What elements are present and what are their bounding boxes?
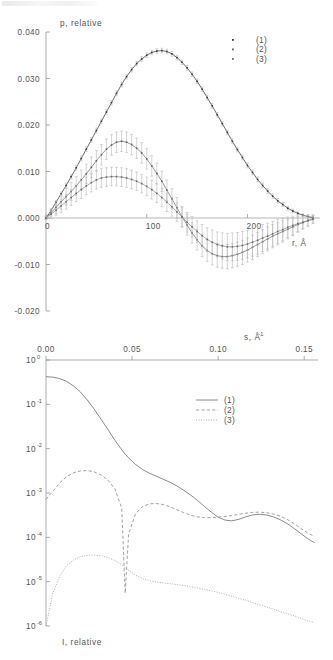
data-point	[96, 130, 98, 132]
bottom-y-tick-exponent: 0	[37, 354, 40, 360]
data-point	[282, 229, 284, 231]
data-point	[45, 217, 47, 219]
data-point	[216, 244, 218, 246]
scan-artifact	[2, 1, 98, 6]
data-point	[312, 218, 314, 220]
bottom-y-tick-label: 10	[26, 578, 36, 587]
data-point	[176, 57, 178, 59]
top-y-tick-label: 0.000	[18, 214, 41, 223]
bottom-x-tick-label: 0.15	[295, 345, 313, 354]
data-point	[121, 140, 123, 142]
data-point	[111, 144, 113, 146]
data-point	[242, 157, 244, 159]
data-point	[287, 207, 289, 209]
data-point	[80, 158, 82, 160]
data-point	[75, 193, 77, 195]
data-point	[292, 210, 294, 212]
bottom-y-tick-exponent: -2	[37, 442, 42, 448]
data-point	[96, 160, 98, 162]
data-point	[116, 141, 118, 143]
bottom-x-tick-label: 0.05	[123, 345, 141, 354]
bottom-y-tick-label: 10	[26, 622, 36, 631]
data-point	[252, 241, 254, 243]
data-point	[131, 179, 133, 181]
data-point	[171, 53, 173, 55]
bottom-y-tick-exponent: -4	[37, 531, 42, 537]
data-point	[80, 179, 82, 181]
data-point	[121, 176, 123, 178]
data-point	[267, 190, 269, 192]
bottom-legend-label-3: (3)	[224, 415, 235, 425]
data-point	[80, 189, 82, 191]
data-point	[106, 148, 108, 150]
data-point	[70, 176, 72, 178]
data-point	[216, 114, 218, 116]
bottom-y-tick-exponent: -6	[37, 620, 42, 626]
data-point	[237, 246, 239, 248]
data-point	[211, 241, 213, 243]
data-point	[262, 185, 264, 187]
figure-container: -0.020-0.0100.0000.0100.0200.0300.040010…	[0, 0, 333, 660]
bottom-y-tick-label: 10	[26, 400, 36, 409]
data-point	[287, 227, 289, 229]
data-point	[292, 225, 294, 227]
data-point	[161, 197, 163, 199]
data-point	[277, 231, 279, 233]
top-y-tick-label: -0.020	[14, 307, 40, 316]
data-point	[136, 180, 138, 182]
data-point	[156, 50, 158, 52]
data-point	[191, 226, 193, 228]
data-point	[232, 140, 234, 142]
data-point	[252, 172, 254, 174]
data-point	[166, 189, 168, 191]
data-point	[126, 141, 128, 143]
legend-label-2: (2)	[256, 44, 267, 54]
data-point	[126, 76, 128, 78]
bottom-curve-1	[46, 377, 315, 543]
bottom-curve-2	[46, 471, 315, 594]
data-point	[186, 221, 188, 223]
data-point	[227, 246, 229, 248]
top-x-tick-label: 100	[146, 222, 161, 231]
data-point	[146, 54, 148, 56]
bottom-x-tick-label: 0.10	[209, 345, 227, 354]
top-x-axis-label: r, Å	[292, 238, 307, 248]
bottom-y-tick-exponent: -1	[37, 398, 42, 404]
data-point	[70, 197, 72, 199]
data-point	[151, 165, 153, 167]
top-y-tick-label: 0.010	[18, 168, 41, 177]
data-point	[181, 216, 183, 218]
data-point	[166, 51, 168, 53]
bottom-y-tick-label: 10	[26, 489, 36, 498]
data-point	[106, 111, 108, 113]
data-point	[247, 243, 249, 245]
data-point	[116, 176, 118, 178]
data-point	[277, 200, 279, 202]
data-point	[186, 67, 188, 69]
data-point	[91, 182, 93, 184]
figure-svg: -0.020-0.0100.0000.0100.0200.0300.040010…	[0, 0, 333, 660]
legend-marker-1	[232, 39, 234, 41]
data-point	[272, 195, 274, 197]
data-point	[101, 177, 103, 179]
top-y-tick-label: 0.020	[18, 121, 41, 130]
top-y-tick-label: -0.010	[14, 261, 40, 270]
top-y-tick-label: 0.040	[18, 28, 41, 37]
data-point	[201, 235, 203, 237]
data-point	[141, 152, 143, 154]
data-point	[156, 173, 158, 175]
data-point	[65, 201, 67, 203]
data-point	[232, 246, 234, 248]
data-point	[96, 179, 98, 181]
data-point	[91, 139, 93, 141]
data-point	[206, 97, 208, 99]
data-point	[166, 201, 168, 203]
data-point	[136, 147, 138, 149]
data-point	[282, 204, 284, 206]
data-point	[221, 245, 223, 247]
data-point	[181, 61, 183, 63]
data-point	[91, 167, 93, 169]
data-point	[206, 239, 208, 241]
data-point	[257, 240, 259, 242]
data-point	[141, 183, 143, 185]
